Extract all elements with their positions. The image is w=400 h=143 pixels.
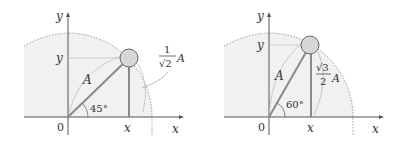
diagram-left: y x 0 x y A 45° 1 √2 A — [24, 9, 185, 136]
origin-label: 0 — [258, 121, 265, 134]
angle-label: 60° — [286, 99, 304, 110]
x-axis-label: x — [372, 122, 379, 136]
proj-x-label: x — [307, 121, 314, 135]
proj-y-label: y — [256, 38, 264, 52]
origin-label: 0 — [57, 121, 64, 134]
diagram-right: y x 0 x y A 60° √3 2 A — [224, 9, 384, 136]
fraction-suffix: A — [331, 72, 340, 85]
ball — [120, 49, 138, 67]
pendulum-diagrams: y x 0 x y A 45° 1 √2 A y x 0 x y A 60° √… — [0, 0, 400, 143]
proj-x-label: x — [124, 121, 131, 135]
ball — [301, 36, 319, 54]
x-axis-arrow-icon — [379, 115, 384, 119]
x-axis-arrow-icon — [179, 115, 184, 119]
fraction-numerator: √3 — [316, 62, 329, 73]
y-axis-label: y — [55, 9, 63, 23]
y-axis-label: y — [256, 9, 264, 23]
fraction-suffix: A — [176, 52, 185, 65]
proj-y-label: y — [55, 51, 63, 65]
y-axis-arrow-icon — [267, 12, 271, 17]
fraction-denominator: 2 — [320, 76, 326, 87]
radius-label: A — [274, 69, 284, 83]
fraction-denominator: √2 — [159, 58, 172, 69]
x-axis-label: x — [172, 122, 179, 136]
fraction-numerator: 1 — [164, 44, 170, 55]
angle-label: 45° — [90, 103, 108, 114]
y-axis-arrow-icon — [66, 12, 70, 17]
radius-label: A — [82, 73, 92, 87]
